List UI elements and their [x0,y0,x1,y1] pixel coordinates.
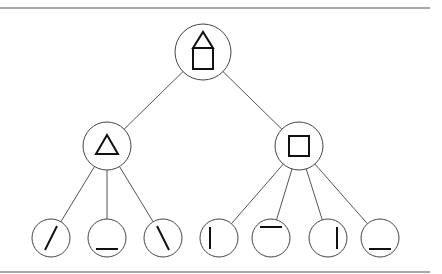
node-root [175,24,231,80]
edge-triangle-to-tri-right-side [119,167,153,222]
node-sq-bottom-side [361,219,399,257]
edge-square-to-sq-bottom-side [315,164,368,224]
shape-decomposition-tree [0,0,442,274]
edge-square-to-sq-right-side [306,169,322,220]
node-sq-left-side [200,219,238,257]
node-square [275,122,323,170]
edge-square-to-sq-left-side [231,164,283,224]
node-tri-left-side [32,219,70,257]
edge-triangle-to-tri-left-side [61,167,95,222]
node-tri-right-side [144,219,182,257]
tree-nodes [32,24,399,257]
node-circle [275,122,323,170]
node-circle [83,122,131,170]
node-triangle [83,122,131,170]
node-circle [361,219,399,257]
node-circle [309,219,347,257]
node-sq-right-side [309,219,347,257]
node-circle [88,219,126,257]
edge-root-to-triangle [124,72,183,130]
node-tri-base [88,219,126,257]
edge-square-to-sq-top-side [277,169,292,220]
node-sq-top-side [252,219,290,257]
node-circle [252,219,290,257]
node-circle [200,219,238,257]
edge-root-to-square [223,72,282,130]
